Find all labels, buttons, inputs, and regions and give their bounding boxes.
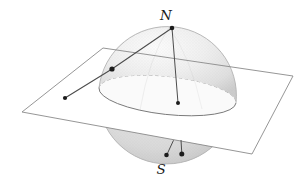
stereographic-projection-figure: N S	[0, 0, 304, 181]
projection-diagram-canvas: N S	[0, 0, 304, 181]
south-pole-point	[164, 153, 169, 158]
axis-exit-point	[179, 152, 184, 157]
sphere-surface-point	[109, 66, 114, 71]
north-pole-label: N	[159, 7, 173, 23]
plane-projection-point	[63, 96, 67, 100]
south-pole-label: S	[156, 161, 165, 177]
sphere-center-point	[176, 101, 180, 105]
north-pole-point	[170, 26, 175, 31]
